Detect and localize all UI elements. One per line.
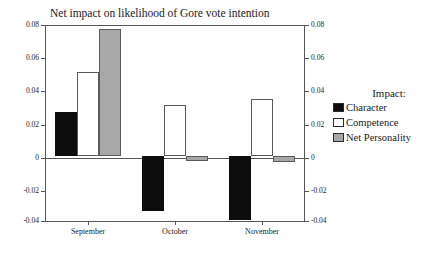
axis-top-spine xyxy=(45,25,305,26)
legend-item-competence[interactable]: Competence xyxy=(333,115,441,130)
bar-november-net-personality xyxy=(273,156,295,163)
legend-item-character[interactable]: Character xyxy=(333,100,441,115)
bar-october-competence xyxy=(164,105,186,156)
ytick-left-label-5: -0.02 xyxy=(23,187,39,195)
bar-october-character xyxy=(142,156,164,212)
bar-november-competence xyxy=(251,99,273,156)
axis-right-spine xyxy=(304,25,305,222)
bar-september-character xyxy=(55,112,77,155)
legend-title: Impact: xyxy=(333,86,441,100)
plot-area: 0.08 0.06 0.04 0.02 0 -0.02 -0.04 xyxy=(45,25,305,222)
bar-september-competence xyxy=(77,72,99,155)
zero-baseline xyxy=(45,158,305,159)
legend-label-net-personality: Net Personality xyxy=(346,131,411,144)
chart-legend: Impact: Character Competence Net Persona… xyxy=(333,86,441,145)
ytick-right-label-5: -0.02 xyxy=(311,187,327,195)
ytick-left-label-3: 0.02 xyxy=(26,121,39,129)
legend-label-character: Character xyxy=(346,101,387,114)
ytick-right-label-3: 0.02 xyxy=(311,121,324,129)
ytick-left-label-4: 0 xyxy=(35,154,39,162)
legend-label-competence: Competence xyxy=(346,116,398,129)
chart-title: Net impact on likelihood of Gore vote in… xyxy=(50,6,300,20)
ytick-left-label-0: 0.08 xyxy=(26,21,39,29)
legend-swatch-net-personality-icon xyxy=(333,133,344,142)
bar-october-net-personality xyxy=(186,156,208,161)
ytick-right-label-6: -0.04 xyxy=(311,217,327,225)
ytick-right-label-4: 0 xyxy=(311,154,315,162)
ytick-left-label-2: 0.04 xyxy=(26,88,39,96)
ytick-right-label-2: 0.04 xyxy=(311,88,324,96)
xtick-september xyxy=(88,221,89,225)
legend-swatch-competence-icon xyxy=(333,118,344,127)
category-label-september: September xyxy=(71,228,105,236)
bar-november-character xyxy=(229,156,251,220)
legend-swatch-character-icon xyxy=(333,103,344,112)
category-label-october: October xyxy=(162,228,188,236)
ytick-left-label-6: -0.04 xyxy=(23,217,39,225)
ytick-left-label-1: 0.06 xyxy=(26,54,39,62)
xtick-october xyxy=(175,221,176,225)
ytick-right-label-1: 0.06 xyxy=(311,54,324,62)
chart-figure: Net impact on likelihood of Gore vote in… xyxy=(0,0,441,255)
legend-item-net-personality[interactable]: Net Personality xyxy=(333,130,441,145)
category-label-november: November xyxy=(245,228,279,236)
ytick-right-label-0: 0.08 xyxy=(311,21,324,29)
axis-left-spine xyxy=(45,25,46,222)
xtick-november xyxy=(262,221,263,225)
bar-september-net-personality xyxy=(99,29,121,156)
